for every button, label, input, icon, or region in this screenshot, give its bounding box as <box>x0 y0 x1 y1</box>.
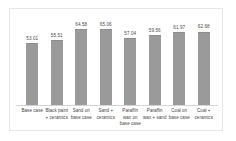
bar-sand-on-base-case[interactable] <box>75 29 87 105</box>
bar-value-label: 64.58 <box>75 23 87 28</box>
bar-value-label: 59.56 <box>149 29 161 34</box>
category-label-paraffin-wax-on-base-case: Paraffin wax on base case <box>118 108 143 128</box>
bar-group: 61.97 <box>167 15 192 105</box>
bar-group: 62.68 <box>192 15 217 105</box>
bar-paraffin-wax-sand[interactable] <box>149 35 161 105</box>
bar-value-label: 62.68 <box>198 25 210 30</box>
bar-value-label: 55.51 <box>51 34 63 39</box>
chart-frame: 53.01 55.51 64.58 65.06 57.04 59.56 61.9… <box>9 8 223 131</box>
bar-coal-on-base-case[interactable] <box>173 32 185 105</box>
bar-base-case[interactable] <box>26 43 38 105</box>
bar-value-label: 61.97 <box>173 26 185 31</box>
category-label-coal-ceramics: Coal + ceramics <box>192 108 217 121</box>
category-label-paraffin-wax-sand: Paraffin wax + sand <box>143 108 168 121</box>
bar-value-label: 53.01 <box>26 37 38 42</box>
bar-group: 53.01 <box>20 15 45 105</box>
x-axis-category-labels: Base case Black paint + ceramics Sand on… <box>20 108 216 128</box>
bar-group: 59.56 <box>143 15 168 105</box>
bar-group: 57.04 <box>118 15 143 105</box>
bar-group: 55.51 <box>45 15 70 105</box>
category-label-sand-ceramics: Sand + ceramics <box>94 108 119 121</box>
bar-paraffin-wax-on-base-case[interactable] <box>124 38 136 105</box>
bar-black-paint-ceramics[interactable] <box>51 40 63 105</box>
bar-value-label: 57.04 <box>124 32 136 37</box>
category-label-black-paint-ceramics: Black paint + ceramics <box>45 108 70 121</box>
category-label-coal-on-base-case: Coal on base case <box>167 108 192 121</box>
bar-value-label: 65.06 <box>100 23 112 28</box>
category-label-sand-on-base-case: Sand on base case <box>69 108 94 121</box>
bar-sand-ceramics[interactable] <box>100 29 112 105</box>
bar-coal-ceramics[interactable] <box>198 32 210 105</box>
bar-group: 64.58 <box>69 15 94 105</box>
x-axis-line <box>16 105 218 106</box>
bar-group: 65.06 <box>94 15 119 105</box>
category-label-base-case: Base case <box>20 108 45 115</box>
plot-area: 53.01 55.51 64.58 65.06 57.04 59.56 61.9… <box>20 15 216 105</box>
